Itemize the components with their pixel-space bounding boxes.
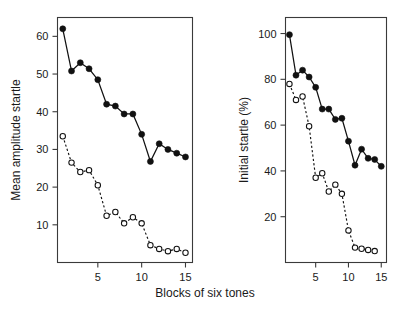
data-point-filled-circles xyxy=(95,77,101,83)
data-point-filled-circles xyxy=(286,32,292,38)
data-point-filled-circles xyxy=(77,60,83,66)
data-point-filled-circles xyxy=(60,26,66,32)
data-point-open-circles xyxy=(352,245,357,250)
data-point-filled-circles xyxy=(112,103,118,109)
series-line-open-circles xyxy=(63,136,186,252)
data-point-filled-circles xyxy=(365,155,371,161)
data-point-open-circles xyxy=(339,191,344,196)
x-axis-title: Blocks of six tones xyxy=(155,286,254,300)
data-point-filled-circles xyxy=(352,162,358,168)
data-point-filled-circles xyxy=(174,150,180,156)
data-point-open-circles xyxy=(156,246,161,251)
y-tick-label: 80 xyxy=(264,73,276,85)
data-point-open-circles xyxy=(121,221,126,226)
y-tick-label: 40 xyxy=(36,106,48,118)
y-tick-label: 10 xyxy=(36,219,48,231)
data-point-open-circles xyxy=(113,209,118,214)
data-point-filled-circles xyxy=(359,146,365,152)
data-point-filled-circles xyxy=(147,158,153,164)
y-tick-label: 50 xyxy=(36,68,48,80)
data-point-filled-circles xyxy=(300,67,306,73)
y-tick-label: 40 xyxy=(264,165,276,177)
data-point-open-circles xyxy=(130,215,135,220)
x-tick-label: 10 xyxy=(342,271,354,283)
y-tick-label: 60 xyxy=(264,119,276,131)
data-point-open-circles xyxy=(320,171,325,176)
data-point-open-circles xyxy=(333,182,338,187)
plot-frame xyxy=(286,18,387,263)
data-point-open-circles xyxy=(69,160,74,165)
y-axis-title: Initial startle (%) xyxy=(237,97,251,183)
data-point-open-circles xyxy=(293,97,298,102)
data-point-open-circles xyxy=(60,134,65,139)
data-point-filled-circles xyxy=(378,163,384,169)
data-point-filled-circles xyxy=(306,74,312,80)
data-point-open-circles xyxy=(300,94,305,99)
data-point-open-circles xyxy=(287,81,292,86)
series-line-filled-circles xyxy=(289,35,381,167)
x-tick-label: 5 xyxy=(313,271,319,283)
data-point-filled-circles xyxy=(86,66,92,72)
y-tick-label: 60 xyxy=(36,30,48,42)
x-tick-label: 10 xyxy=(136,271,148,283)
data-point-open-circles xyxy=(359,246,364,251)
panel-left: 10203040506051015Mean amplitude startle xyxy=(9,18,193,283)
data-point-open-circles xyxy=(183,250,188,255)
y-tick-label: 20 xyxy=(264,211,276,223)
data-point-open-circles xyxy=(174,246,179,251)
y-axis-title: Mean amplitude startle xyxy=(9,79,23,201)
data-point-open-circles xyxy=(313,175,318,180)
data-point-filled-circles xyxy=(345,138,351,144)
data-point-filled-circles xyxy=(339,115,345,121)
data-point-open-circles xyxy=(306,124,311,129)
x-tick-label: 5 xyxy=(95,271,101,283)
panel-right: 2040608010051015Initial startle (%) xyxy=(237,18,388,283)
data-point-filled-circles xyxy=(326,106,332,112)
data-point-open-circles xyxy=(86,167,91,172)
data-point-filled-circles xyxy=(104,101,110,107)
data-point-open-circles xyxy=(104,213,109,218)
data-point-open-circles xyxy=(148,242,153,247)
data-point-open-circles xyxy=(78,169,83,174)
data-point-filled-circles xyxy=(332,116,338,122)
figure-container: 10203040506051015Mean amplitude startle2… xyxy=(0,0,411,310)
data-point-filled-circles xyxy=(121,111,127,117)
y-tick-label: 30 xyxy=(36,143,48,155)
data-point-filled-circles xyxy=(182,154,188,160)
data-point-filled-circles xyxy=(69,68,75,74)
data-point-open-circles xyxy=(95,183,100,188)
data-point-open-circles xyxy=(372,248,377,253)
x-tick-label: 15 xyxy=(179,271,191,283)
data-point-filled-circles xyxy=(319,106,325,112)
data-point-filled-circles xyxy=(156,141,162,147)
series-line-filled-circles xyxy=(63,29,186,162)
data-point-filled-circles xyxy=(130,111,136,117)
scientific-figure: 10203040506051015Mean amplitude startle2… xyxy=(0,0,411,310)
data-point-open-circles xyxy=(139,221,144,226)
data-point-filled-circles xyxy=(313,84,319,90)
data-point-filled-circles xyxy=(165,146,171,152)
data-point-open-circles xyxy=(365,247,370,252)
data-point-filled-circles xyxy=(293,72,299,78)
data-point-filled-circles xyxy=(372,156,378,162)
data-point-open-circles xyxy=(326,189,331,194)
x-tick-label: 15 xyxy=(375,271,387,283)
data-point-open-circles xyxy=(165,248,170,253)
data-point-filled-circles xyxy=(139,131,145,137)
y-tick-label: 100 xyxy=(258,28,276,40)
data-point-open-circles xyxy=(346,228,351,233)
y-tick-label: 20 xyxy=(36,181,48,193)
